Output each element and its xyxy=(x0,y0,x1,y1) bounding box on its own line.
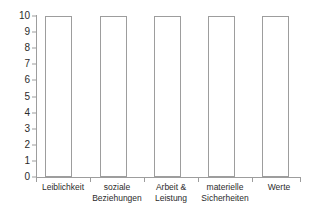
y-tick-label: 6 xyxy=(24,75,36,85)
x-label-line: soziale xyxy=(86,182,148,193)
bar-leiblichkeit[interactable] xyxy=(45,16,72,177)
bar-materielle-sicherheiten[interactable] xyxy=(208,16,235,177)
x-label-line: Beziehungen xyxy=(86,193,148,204)
x-label-arbeit-leistung: Arbeit & Leistung xyxy=(140,182,202,204)
y-tick-label: 3 xyxy=(24,124,36,134)
y-tick-label: 9 xyxy=(24,27,36,37)
y-tick-label: 10 xyxy=(19,11,36,21)
x-label-line: Werte xyxy=(248,182,310,193)
bar-soziale-beziehungen[interactable] xyxy=(100,16,127,177)
y-tick-label: 1 xyxy=(24,156,36,166)
x-label-line: Arbeit & xyxy=(140,182,202,193)
y-tick-label: 5 xyxy=(24,92,36,102)
y-tick-label: 4 xyxy=(24,108,36,118)
bars-layer xyxy=(36,16,301,177)
x-label-line: Leiblichkeit xyxy=(32,182,94,193)
x-axis-line xyxy=(36,177,301,178)
x-label-soziale-beziehungen: soziale Beziehungen xyxy=(86,182,148,204)
bar-chart: 0 1 2 3 4 5 6 7 xyxy=(0,0,319,215)
y-tick-label: 2 xyxy=(24,140,36,150)
bar-werte[interactable] xyxy=(262,16,289,177)
y-tick-label: 8 xyxy=(24,43,36,53)
x-label-werte: Werte xyxy=(248,182,310,193)
x-label-leiblichkeit: Leiblichkeit xyxy=(32,182,94,193)
y-tick-label: 7 xyxy=(24,59,36,69)
x-label-line: Leistung xyxy=(140,193,202,204)
x-label-materielle-sicherheiten: materielle Sicherheiten xyxy=(194,182,256,204)
x-label-line: materielle xyxy=(194,182,256,193)
y-tick-label: 0 xyxy=(24,172,36,182)
plot-area: 0 1 2 3 4 5 6 7 xyxy=(36,16,301,177)
x-axis-labels: Leiblichkeit soziale Beziehungen Arbeit … xyxy=(36,182,301,215)
x-label-line: Sicherheiten xyxy=(194,193,256,204)
bar-arbeit-leistung[interactable] xyxy=(154,16,181,177)
